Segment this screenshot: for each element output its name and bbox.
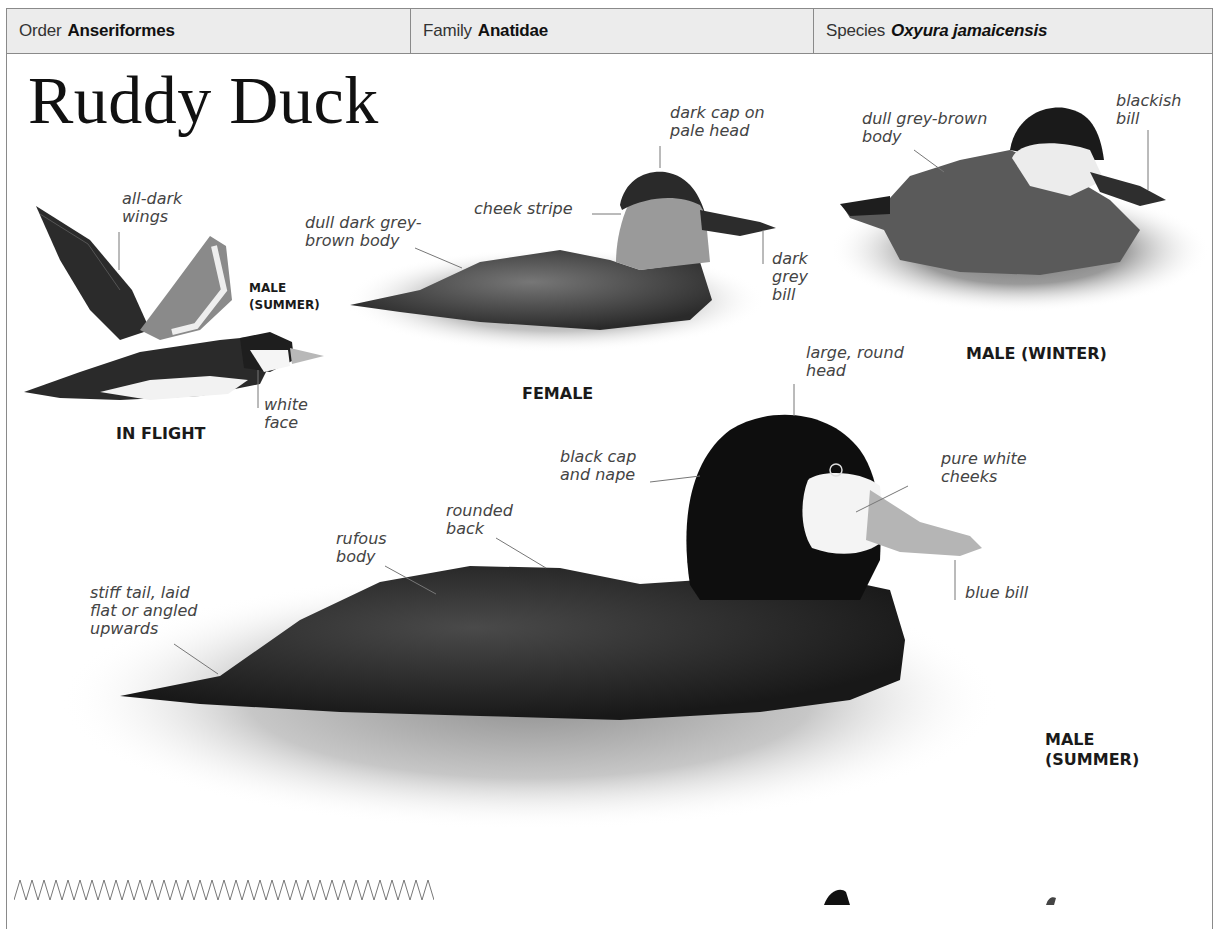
male-summer-duck-photo xyxy=(60,384,1000,830)
label-dull-grey-brown-body: dull grey-brown body xyxy=(862,110,987,146)
label-dull-dark-grey-brown-body: dull dark grey- brown body xyxy=(305,214,421,250)
label-dark-cap-on-pale-head: dark cap on pale head xyxy=(670,104,765,140)
label-all-dark-wings: all-dark wings xyxy=(122,190,182,226)
caption-in-flight-male-summer: MALE (SUMMER) xyxy=(249,280,320,314)
label-dark-grey-bill: dark grey bill xyxy=(772,250,808,304)
caption-female: FEMALE xyxy=(522,384,593,404)
label-black-cap-and-nape: black cap and nape xyxy=(560,448,636,484)
label-white-face: white face xyxy=(264,396,308,432)
label-blue-bill: blue bill xyxy=(965,584,1028,602)
caption-in-flight: IN FLIGHT xyxy=(116,424,205,444)
label-stiff-tail: stiff tail, laid flat or angled upwards xyxy=(90,584,198,638)
label-cheek-stripe: cheek stripe xyxy=(474,200,573,218)
label-pure-white-cheeks: pure white cheeks xyxy=(941,450,1027,486)
label-large-round-head: large, round head xyxy=(806,344,904,380)
label-blackish-bill: blackish bill xyxy=(1116,92,1181,128)
label-rounded-back: rounded back xyxy=(446,502,513,538)
zigzag-divider xyxy=(14,880,434,900)
caption-male-summer: MALE (SUMMER) xyxy=(1045,730,1139,770)
silhouette-mark-icon xyxy=(824,890,850,905)
caption-male-winter: MALE (WINTER) xyxy=(966,344,1107,364)
label-rufous-body: rufous body xyxy=(336,530,387,566)
silhouette-mark-icon xyxy=(1046,897,1056,905)
